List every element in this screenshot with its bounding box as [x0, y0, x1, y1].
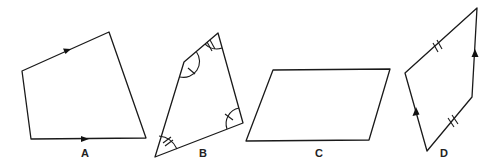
angle-arc-icon — [159, 136, 177, 149]
parallel-arrow-icon — [63, 49, 71, 55]
parallel-arrow-icon — [472, 49, 479, 57]
parallel-arrow-icon — [413, 107, 420, 116]
shape-c-outline — [246, 69, 390, 141]
shape-b — [155, 33, 243, 157]
shape-d — [405, 8, 479, 151]
shape-a — [22, 32, 146, 142]
shape-c — [246, 69, 390, 141]
shape-b-label: B — [199, 147, 207, 159]
shape-d-label: D — [440, 147, 448, 159]
shape-c-label: C — [315, 147, 323, 159]
angle-tick-icon — [188, 68, 195, 74]
shape-a-outline — [22, 32, 146, 139]
shape-d-outline — [405, 8, 477, 151]
shape-a-label: A — [81, 147, 89, 159]
parallel-arrow-icon — [81, 136, 89, 142]
